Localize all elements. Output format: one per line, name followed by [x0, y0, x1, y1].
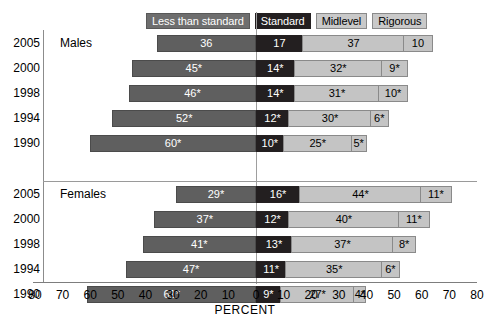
- legend-label: Standard: [261, 15, 305, 27]
- stacked-bar: 46*14*31*10*: [0, 85, 490, 102]
- stacked-bar: 29*16*44*11*: [0, 186, 490, 203]
- bar-segment-midlevel: 37*: [291, 236, 394, 253]
- segment-value-label: 8*: [399, 236, 409, 253]
- bar-segment-less-than-standard: 36: [157, 35, 256, 52]
- bar-segment-midlevel: 32*: [294, 60, 383, 77]
- segment-value-label: 13*: [266, 236, 283, 253]
- bar-segment-standard: 13*: [256, 236, 292, 253]
- legend-item-less-than-standard: Less than standard: [146, 13, 250, 29]
- stacked-bar: 36173710: [0, 35, 490, 52]
- bar-segment-standard: 10*: [256, 135, 284, 152]
- x-axis-tick-label: 80: [20, 288, 50, 302]
- x-axis-tick-label: 50: [379, 288, 409, 302]
- segment-value-label: 10*: [262, 135, 279, 152]
- bar-segment-midlevel: 31*: [294, 85, 381, 102]
- x-axis-tick-label: 60: [75, 288, 105, 302]
- x-axis-tick-label: 10: [213, 288, 243, 302]
- segment-value-label: 12*: [264, 211, 281, 228]
- legend-item-rigorous: Rigorous: [372, 13, 427, 29]
- table-row: 200529*16*44*11*: [0, 184, 490, 205]
- table-row: 199841*13*37*8*: [0, 234, 490, 255]
- plot-area: Males Females 200536173710200045*14*32*9…: [0, 30, 490, 285]
- legend-item-standard: Standard: [255, 13, 311, 29]
- bar-segment-rigorous: 6*: [370, 110, 389, 127]
- stacked-bar: 37*12*40*11*: [0, 211, 490, 228]
- bar-segment-standard: 11*: [256, 261, 286, 278]
- segment-value-label: 10: [412, 35, 424, 52]
- segment-value-label: 9*: [389, 60, 399, 77]
- x-axis-tick-label: 60: [407, 288, 437, 302]
- segment-value-label: 12*: [264, 110, 281, 127]
- bar-segment-less-than-standard: 47*: [126, 261, 256, 278]
- bar-segment-less-than-standard: 46*: [129, 85, 256, 102]
- stacked-bar: 47*11*35*6*: [0, 261, 490, 278]
- bar-segment-less-than-standard: 29*: [176, 186, 256, 203]
- stacked-bar: 41*13*37*8*: [0, 236, 490, 253]
- table-row: 200045*14*32*9*: [0, 58, 490, 79]
- bar-segment-less-than-standard: 41*: [143, 236, 256, 253]
- legend-label: Rigorous: [378, 15, 421, 27]
- x-axis-tick-label: 80: [462, 288, 490, 302]
- segment-value-label: 44*: [352, 186, 369, 203]
- bar-segment-standard: 14*: [256, 85, 295, 102]
- bar-segment-midlevel: 30*: [288, 110, 372, 127]
- legend-label: Midlevel: [322, 15, 362, 27]
- segment-value-label: 35*: [326, 261, 343, 278]
- table-row: 199060*10*25*5*: [0, 133, 490, 154]
- x-axis-tick-label: 50: [103, 288, 133, 302]
- legend-item-midlevel: Midlevel: [316, 13, 368, 29]
- x-axis-tick-label: 40: [352, 288, 382, 302]
- segment-value-label: 31*: [329, 85, 346, 102]
- segment-value-label: 10*: [385, 85, 402, 102]
- x-axis-tick-label: 20: [296, 288, 326, 302]
- bar-segment-rigorous: 11*: [398, 211, 430, 228]
- segment-value-label: 41*: [191, 236, 208, 253]
- segment-value-label: 37: [347, 35, 359, 52]
- bar-segment-midlevel: 35*: [285, 261, 383, 278]
- group-separator-line: [43, 181, 477, 182]
- segment-value-label: 30*: [322, 110, 339, 127]
- segment-value-label: 29*: [208, 186, 225, 203]
- x-axis-tick-label: 30: [324, 288, 354, 302]
- bar-segment-standard: 16*: [256, 186, 300, 203]
- x-axis-tick-label: 70: [48, 288, 78, 302]
- bar-segment-midlevel: 44*: [299, 186, 422, 203]
- table-row: 199452*12*30*6*: [0, 108, 490, 129]
- segment-value-label: 6*: [374, 110, 384, 127]
- segment-value-label: 11*: [263, 261, 279, 278]
- segment-value-label: 14*: [267, 85, 284, 102]
- segment-value-label: 11*: [428, 186, 444, 203]
- table-row: 200536173710: [0, 33, 490, 54]
- x-axis-tick-label: 10: [269, 288, 299, 302]
- bar-segment-less-than-standard: 60*: [90, 135, 256, 152]
- bar-segment-standard: 12*: [256, 211, 289, 228]
- x-axis-line: [33, 282, 477, 283]
- bar-segment-standard: 14*: [256, 60, 295, 77]
- segment-value-label: 60*: [165, 135, 182, 152]
- segment-value-label: 52*: [176, 110, 193, 127]
- segment-value-label: 32*: [330, 60, 347, 77]
- segment-value-label: 37*: [334, 236, 351, 253]
- bar-segment-midlevel: 25*: [283, 135, 353, 152]
- x-axis-tick-label: 70: [434, 288, 464, 302]
- x-axis-tick-label: 40: [131, 288, 161, 302]
- segment-value-label: 5*: [353, 135, 363, 152]
- bar-segment-rigorous: 11*: [420, 186, 452, 203]
- bar-segment-standard: 17: [256, 35, 303, 52]
- x-axis-label: PERCENT: [0, 303, 490, 317]
- x-axis-tick-label: 20: [186, 288, 216, 302]
- bar-segment-rigorous: 6*: [381, 261, 400, 278]
- segment-value-label: 47*: [183, 261, 200, 278]
- bar-segment-rigorous: 8*: [392, 236, 416, 253]
- bar-segment-midlevel: 37: [302, 35, 405, 52]
- x-axis-tick-label: 0: [241, 288, 271, 302]
- chart-legend: Less than standard Standard Midlevel Rig…: [146, 13, 432, 29]
- bar-segment-less-than-standard: 45*: [132, 60, 256, 77]
- segment-value-label: 17: [273, 35, 285, 52]
- stacked-bar: 60*10*25*5*: [0, 135, 490, 152]
- segment-value-label: 36: [200, 35, 212, 52]
- x-axis-tick-label: 30: [158, 288, 188, 302]
- segment-value-label: 11*: [406, 211, 422, 228]
- chart-container: Less than standard Standard Midlevel Rig…: [0, 0, 490, 323]
- table-row: 199846*14*31*10*: [0, 83, 490, 104]
